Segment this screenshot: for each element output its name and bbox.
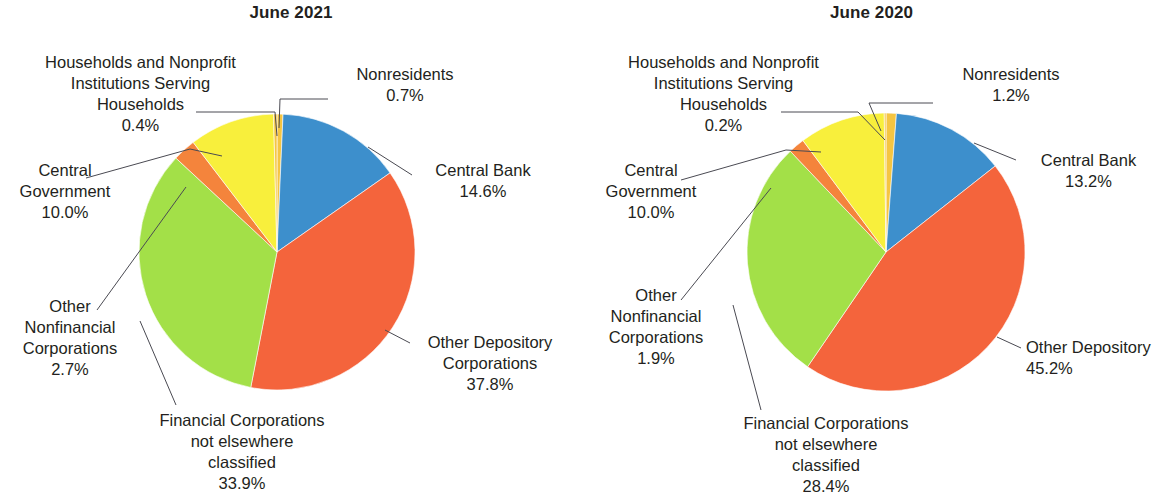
leader-line-financial-nec-right xyxy=(733,305,761,410)
label-other-depository-left: Other Depository Corporations 37.8% xyxy=(415,332,565,395)
label-central-government-right: Central Government 10.0% xyxy=(586,160,716,223)
pie-slices-right xyxy=(747,113,1025,391)
label-nonresidents-left: Nonresidents 0.7% xyxy=(330,64,480,106)
label-other-nonfinancial-right: Other Nonfinancial Corporations 1.9% xyxy=(591,285,721,369)
leader-line-other-depository-left xyxy=(385,330,410,343)
leader-line-other-depository-right xyxy=(997,337,1021,348)
pie-chart-panel-june-2020: June 2020 Households and Nonprofit Insti… xyxy=(581,0,1163,504)
pie-slices-left xyxy=(139,114,415,390)
label-other-nonfinancial-left: Other Nonfinancial Corporations 2.7% xyxy=(10,296,130,380)
label-financial-nec-left: Financial Corporations not elsewhere cla… xyxy=(142,410,342,494)
pie-chart-panel-june-2021: June 2021 Households and Nonprofit Insti… xyxy=(0,0,582,504)
label-nonresidents-right: Nonresidents 1.2% xyxy=(936,64,1086,106)
label-financial-nec-right: Financial Corporations not elsewhere cla… xyxy=(726,413,926,497)
label-central-bank-left: Central Bank 14.6% xyxy=(418,160,548,202)
label-central-bank-right: Central Bank 13.2% xyxy=(1021,150,1156,192)
label-households-left: Households and Nonprofit Institutions Se… xyxy=(8,52,273,136)
label-other-depository-right: Other Depository 45.2% xyxy=(1026,337,1163,379)
label-central-government-left: Central Government 10.0% xyxy=(10,160,120,223)
label-households-right: Households and Nonprofit Institutions Se… xyxy=(591,52,856,136)
